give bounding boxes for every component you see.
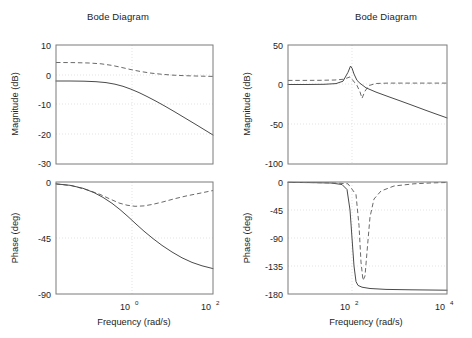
panel-right-plot: 50 0 -50 -100 Magnitude (dB) 0 -45 - [236,0,472,338]
panel-left-plot: 10 0 -10 -20 -30 Magnitude (dB) 0 -45 -9… [0,0,236,338]
right-xtick-1-mantissa: 10 [435,302,445,312]
left-mag-ytick-2: -10 [38,100,51,110]
bode-panel-right: Bode Diagram 50 0 -50 -100 Magnitude (dB… [236,0,472,338]
left-xlabel: Frequency (rad/s) [97,317,170,327]
right-xtick-0-exponent: 2 [355,299,359,306]
right-magnitude-subplot: 50 0 -50 -100 Magnitude (dB) [242,41,447,170]
right-mag-ytick-1: 0 [278,80,283,90]
left-mag-ytick-3: -20 [38,130,51,140]
bode-figure: Bode Diagram 10 0 -10 -20 -30 Magnitude … [0,0,472,338]
left-phase-ylabel: Phase (deg) [10,213,20,264]
left-mag-ytick-0: 10 [41,41,51,51]
right-xtick-0: 10 2 [340,299,359,312]
left-xtick-0-mantissa: 10 [120,302,130,312]
right-phase-ytick-2: -90 [270,234,283,244]
right-magnitude-ylabel: Magnitude (dB) [242,72,252,136]
right-phase-ytick-0: 0 [278,178,283,188]
right-magnitude-axes-box [288,45,447,164]
left-xtick-0-exponent: 0 [135,299,139,306]
right-xtick-1: 10 4 [435,299,454,312]
right-phase-ylabel: Phase (deg) [242,213,252,264]
left-phase-ytick-1: -45 [38,234,51,244]
right-xtick-1-exponent: 4 [450,299,454,306]
left-phase-ytick-2: -90 [38,290,51,300]
right-phase-ytick-4: -180 [265,290,283,300]
left-magnitude-curve-dashed [56,63,213,77]
right-mag-ytick-3: -100 [265,159,283,169]
right-xtick-0-mantissa: 10 [340,302,350,312]
right-mag-ytick-0: 50 [273,41,283,51]
right-phase-ytick-1: -45 [270,206,283,216]
left-mag-ytick-1: 0 [46,71,51,81]
right-phase-subplot: 0 -45 -90 -135 -180 Phase (deg) 10 2 10 … [242,178,454,328]
left-magnitude-subplot: 10 0 -10 -20 -30 Magnitude (dB) [10,41,213,170]
right-magnitude-curve-dashed [288,77,447,98]
left-magnitude-ylabel: Magnitude (dB) [10,72,20,136]
left-xtick-1-exponent: 2 [216,299,220,306]
left-mag-ytick-4: -30 [38,159,51,169]
bode-panel-left: Bode Diagram 10 0 -10 -20 -30 Magnitude … [0,0,236,338]
left-phase-curve-solid [56,184,213,269]
left-xtick-0: 10 0 [120,299,139,312]
left-phase-ytick-0: 0 [46,178,51,188]
right-magnitude-curve-solid [288,66,447,118]
left-magnitude-curve-solid [56,81,213,135]
left-xtick-1: 10 2 [201,299,220,312]
left-xtick-1-mantissa: 10 [201,302,211,312]
right-phase-ytick-3: -135 [265,262,283,272]
right-xlabel: Frequency (rad/s) [329,317,402,327]
right-mag-ytick-2: -50 [270,120,283,130]
left-phase-subplot: 0 -45 -90 Phase (deg) 10 0 10 2 Frequenc… [10,178,220,328]
right-phase-curve-solid [288,182,447,290]
